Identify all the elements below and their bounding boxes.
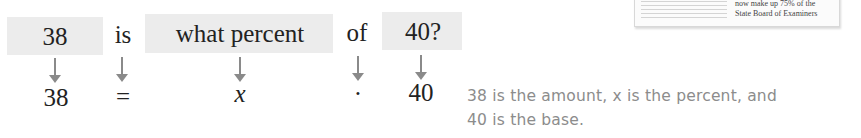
word-of: of: [347, 20, 368, 45]
equation-amount: 38: [44, 85, 69, 110]
clipping-line-1: now make up 75% of the: [735, 0, 817, 9]
note-line-1: 38 is the amount, x is the percent, and: [467, 84, 857, 108]
equation-equals: =: [116, 84, 130, 109]
word-base: 40?: [405, 19, 441, 44]
clipping-placeholder-lines: [641, 1, 727, 21]
word-amount: 38: [43, 24, 68, 49]
newspaper-clipping: now make up 75% of the State Board of Ex…: [634, 0, 840, 27]
equation-times: ·: [354, 81, 362, 106]
equation-variable: x: [234, 81, 245, 106]
word-what-percent: what percent: [176, 21, 304, 46]
equation-base: 40: [409, 80, 434, 105]
note-line-2: 40 is the base.: [467, 108, 857, 132]
clipping-line-2: State Board of Examiners: [735, 9, 817, 19]
clipping-text: now make up 75% of the State Board of Ex…: [735, 0, 817, 19]
word-is: is: [115, 22, 132, 47]
explanation-note: 38 is the amount, x is the percent, and …: [467, 84, 857, 132]
